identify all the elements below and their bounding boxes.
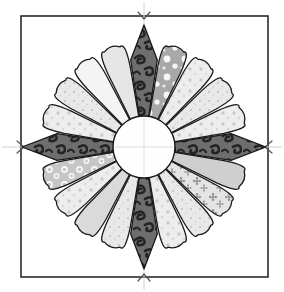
quilt-block-canvas (0, 0, 284, 292)
dresden-plate-diagram (0, 0, 284, 292)
